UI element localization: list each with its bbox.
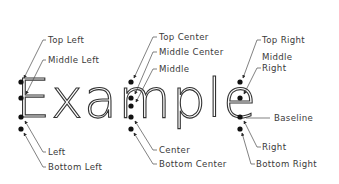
label-top-left: Top Left bbox=[47, 35, 84, 45]
label-right: Right bbox=[262, 142, 287, 152]
label-bottom-left: Bottom Left bbox=[48, 162, 103, 172]
bottom-right-leader bbox=[242, 133, 255, 164]
bottom-center-point bbox=[128, 126, 133, 131]
label-bottom-center: Bottom Center bbox=[159, 159, 227, 169]
top-center-point bbox=[128, 79, 133, 84]
label-left: Left bbox=[48, 147, 66, 157]
label-center: Center bbox=[159, 145, 190, 155]
middle-point bbox=[128, 103, 133, 108]
label-top-center: Top Center bbox=[158, 32, 209, 42]
label-top-right: Top Right bbox=[261, 35, 305, 45]
label-middle-center: Middle Center bbox=[159, 47, 224, 57]
label-bottom-right: Bottom Right bbox=[256, 159, 317, 169]
middle-center-point bbox=[128, 95, 133, 100]
bottom-left-point bbox=[18, 126, 23, 131]
example-word: Example bbox=[16, 67, 257, 130]
text-alignment-diagram: Example Top Left Middle Left Left Bottom… bbox=[0, 0, 339, 184]
center-point bbox=[128, 114, 133, 119]
middle-right-point bbox=[237, 95, 242, 100]
label-baseline: Baseline bbox=[274, 113, 313, 123]
bottom-right-point bbox=[237, 126, 242, 131]
middle-left-point bbox=[18, 95, 23, 100]
left-point bbox=[18, 114, 23, 119]
label-middle-right-line1: Middle bbox=[262, 52, 293, 62]
top-right-point bbox=[237, 79, 242, 84]
label-middle-right-line2: Right bbox=[262, 63, 287, 73]
top-left-point bbox=[18, 79, 23, 84]
label-middle: Middle bbox=[159, 64, 190, 74]
right-point bbox=[237, 114, 242, 119]
label-middle-left: Middle Left bbox=[48, 55, 99, 65]
